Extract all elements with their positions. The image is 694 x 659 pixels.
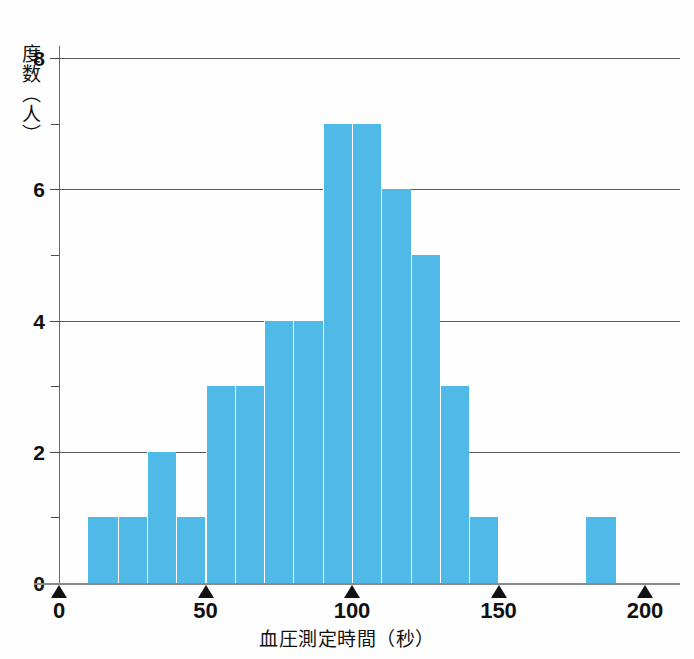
y-tick-minor-1	[51, 517, 59, 518]
x-tick-marker-100	[344, 585, 360, 598]
y-tick-label-6: 6	[33, 179, 45, 200]
histogram-bar	[440, 386, 469, 583]
y-tick-major-2	[50, 452, 59, 453]
histogram-bar	[176, 517, 205, 583]
histogram-bar	[264, 321, 293, 584]
histogram-bar	[352, 124, 381, 583]
y-tick-minor-5	[51, 255, 59, 256]
x-tick-marker-150	[491, 585, 507, 598]
histogram-bar	[88, 517, 117, 583]
gridline-y-8	[59, 58, 680, 59]
histogram-bar	[586, 517, 615, 583]
x-tick-marker-0	[51, 585, 67, 598]
histogram-bar	[293, 321, 322, 584]
plot-area: 02468	[59, 58, 680, 583]
y-tick-major-8	[50, 58, 59, 59]
histogram-bar	[235, 386, 264, 583]
histogram-bar	[469, 517, 498, 583]
x-tick-marker-50	[198, 585, 214, 598]
x-axis-title: 血圧測定時間（秒）	[0, 624, 694, 651]
y-tick-major-4	[50, 321, 59, 322]
histogram-bar	[147, 452, 176, 583]
x-tick-label-100: 100	[334, 600, 371, 622]
histogram-bar	[118, 517, 147, 583]
histogram-bar	[323, 124, 352, 583]
histogram-bar	[411, 255, 440, 583]
y-tick-label-4: 4	[33, 310, 45, 331]
histogram-bar	[206, 386, 235, 583]
x-tick-label-200: 200	[627, 600, 664, 622]
y-tick-label-2: 2	[33, 441, 45, 462]
x-tick-label-0: 0	[53, 600, 65, 622]
x-tick-label-150: 150	[480, 600, 517, 622]
y-tick-minor-7	[51, 124, 59, 125]
histogram-bar	[381, 189, 410, 583]
y-tick-major-6	[50, 189, 59, 190]
y-tick-minor-3	[51, 386, 59, 387]
histogram-figure: 度数（人） 02468 050100150200 血圧測定時間（秒）	[0, 0, 694, 659]
x-tick-label-50: 50	[193, 600, 217, 622]
y-tick-label-8: 8	[33, 48, 45, 69]
x-tick-marker-200	[637, 585, 653, 598]
